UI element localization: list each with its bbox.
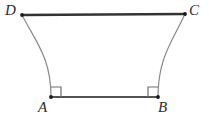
geometry-figure: A B C D — [0, 0, 209, 129]
vertex-dot-C — [183, 12, 187, 16]
arc-DA-curve — [22, 15, 51, 97]
arc-CB-curve — [158, 14, 185, 97]
vertex-label-b: B — [158, 100, 167, 115]
figure-svg — [0, 0, 209, 129]
vertex-dot-D — [20, 13, 24, 17]
segment-DC-line — [22, 14, 185, 15]
right-angle-marker-B — [148, 87, 158, 97]
right-angle-marker-A — [51, 87, 61, 97]
vertex-label-c: C — [189, 3, 199, 18]
vertex-label-d: D — [5, 3, 16, 18]
vertex-dot-A — [49, 95, 53, 99]
vertex-label-a: A — [38, 100, 47, 115]
